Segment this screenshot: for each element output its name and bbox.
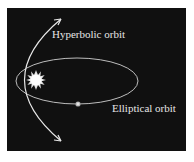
orbit-diagram: Hyperbolic orbit Elliptical orbit (0, 0, 194, 162)
planet-dot (75, 101, 80, 106)
sun-icon (26, 70, 46, 90)
elliptical-orbit-label: Elliptical orbit (112, 102, 176, 114)
hyperbolic-orbit-label: Hyperbolic orbit (52, 28, 125, 40)
